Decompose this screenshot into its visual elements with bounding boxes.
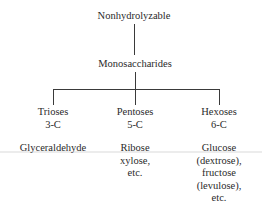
carbon-count: 6-C [196,119,241,132]
carbon-count: 5-C [117,119,154,132]
examples-list: Glyceraldehyde [20,142,86,155]
example-item: etc. [196,192,241,205]
branch-trioses: Trioses 3-C Glyceraldehyde [20,106,86,155]
example-item: Ribose [117,142,154,155]
examples-list: Glucose (dextrose), fructose (levulose),… [196,142,241,205]
branch-pentoses: Pentoses 5-C Ribose xylose, etc. [117,106,154,180]
example-item: (levulose), [196,180,241,193]
example-item: Glucose [196,142,241,155]
example-item: Glyceraldehyde [20,142,86,155]
connector-root-to-monosaccharides [134,24,135,55]
branch-name: Hexoses [196,106,241,119]
connector-to-pentoses [135,89,136,105]
connector-to-trioses [53,89,54,105]
root-node-nonhydrolyzable: Nonhydrolyzable [98,9,171,22]
node-monosaccharides: Monosaccharides [98,57,171,70]
branch-hexoses: Hexoses 6-C Glucose (dextrose), fructose… [196,106,241,205]
connector-to-hexoses [219,89,220,105]
branch-name: Trioses [20,106,86,119]
example-item: (dextrose), [196,155,241,168]
branch-horizontal-bar [53,89,220,90]
carbon-count: 3-C [20,119,86,132]
example-item: fructose [196,167,241,180]
branch-name: Pentoses [117,106,154,119]
example-item: etc. [117,167,154,180]
connector-monosaccharides-down [135,72,136,90]
examples-list: Ribose xylose, etc. [117,142,154,180]
example-item: xylose, [117,155,154,168]
